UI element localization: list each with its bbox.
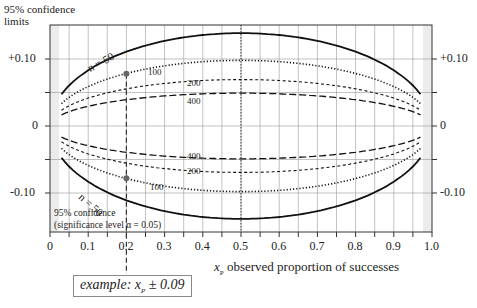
svg-text:200: 200: [187, 166, 201, 176]
x-tick-label: 0.5: [233, 239, 248, 254]
x-tick-label: 0.8: [348, 239, 363, 254]
svg-text:400: 400: [187, 96, 201, 106]
y-tick-right-minus: -0.10: [440, 185, 465, 200]
x-tick-label: 0.1: [80, 239, 95, 254]
x-axis-subscript: P: [220, 269, 224, 277]
x-tick-label: 0.7: [309, 239, 324, 254]
x-tick-label: 0: [47, 239, 53, 254]
y-tick-left-minus: -0.10: [10, 185, 35, 200]
example-prefix: example:: [80, 277, 131, 292]
significance-note-line1: 95% confidence: [54, 207, 161, 219]
example-value: ± 0.09: [149, 277, 185, 292]
svg-text:100: 100: [150, 182, 164, 192]
x-tick-label: 0.3: [157, 239, 172, 254]
y-tick-right-zero: 0: [440, 118, 446, 133]
x-tick-label: 0.2: [118, 239, 133, 254]
significance-note-line2: (significance level α = 0.05): [54, 219, 161, 231]
x-tick-label: 0.4: [195, 239, 210, 254]
svg-text:400: 400: [187, 151, 201, 161]
x-tick-label: 1.0: [424, 239, 439, 254]
y-tick-left-plus: +0.10: [8, 51, 36, 66]
svg-text:200: 200: [187, 78, 201, 88]
example-sub: P: [141, 287, 145, 295]
annotations: n = 50n = 50100100200200400400: [77, 25, 241, 274]
x-tick-label: 0.9: [386, 239, 401, 254]
example-box: example: xP ± 0.09: [73, 275, 192, 297]
significance-note: 95% confidence (significance level α = 0…: [54, 207, 161, 231]
y-tick-right-plus: +0.10: [440, 51, 468, 66]
svg-text:n = 50: n = 50: [85, 50, 116, 74]
x-tick-label: 0.6: [271, 239, 286, 254]
x-axis-title: xP observed proportion of successes: [214, 259, 399, 277]
x-axis-label-text: observed proportion of successes: [227, 259, 399, 274]
svg-text:100: 100: [148, 67, 162, 77]
y-tick-left-zero: 0: [32, 118, 38, 133]
